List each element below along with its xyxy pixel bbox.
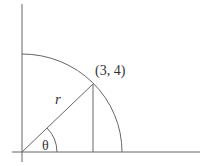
diagram-canvas: (3, 4) r θ [0, 0, 206, 166]
radius-label: r [55, 91, 61, 107]
polar-diagram: (3, 4) r θ [0, 0, 206, 166]
angle-label: θ [42, 138, 49, 153]
point-label: (3, 4) [95, 63, 126, 79]
